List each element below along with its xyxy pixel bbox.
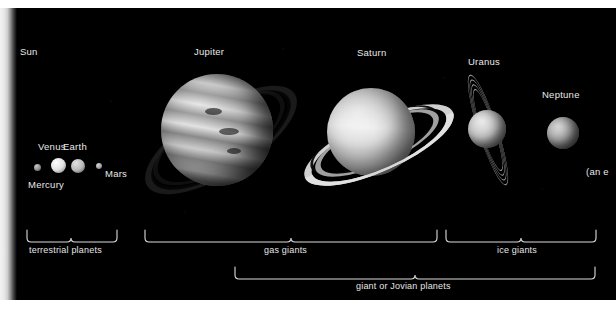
bracket-ice-giants xyxy=(445,229,597,243)
bracket-label-ice-giants: ice giants xyxy=(497,246,537,255)
sun-limb xyxy=(0,8,17,300)
label-sun: Sun xyxy=(20,47,38,57)
jupiter-spot-1 xyxy=(205,108,222,115)
planet-mercury xyxy=(34,164,41,171)
planet-mars xyxy=(96,163,102,169)
label-mars: Mars xyxy=(105,169,127,179)
solar-system-figure: Sun Mercury Venus Earth Mars Jupiter xyxy=(0,0,616,310)
jupiter-spot-3 xyxy=(227,148,241,154)
bracket-terrestrial xyxy=(26,229,118,243)
planet-jupiter-group xyxy=(140,60,288,206)
planet-saturn-group xyxy=(296,66,446,208)
planet-jupiter xyxy=(161,74,273,186)
planet-venus xyxy=(51,158,66,173)
planet-neptune xyxy=(547,117,579,149)
jupiter-spot-2 xyxy=(219,128,239,135)
label-earth: Earth xyxy=(63,142,87,152)
caption-fragment: (an e xyxy=(586,167,609,177)
label-saturn: Saturn xyxy=(357,48,387,58)
diagram-plate: Sun Mercury Venus Earth Mars Jupiter xyxy=(0,8,616,300)
label-jupiter: Jupiter xyxy=(194,47,224,57)
bracket-label-gas-giants: gas giants xyxy=(264,246,307,255)
bracket-gas-giants xyxy=(144,229,438,243)
planet-earth xyxy=(71,159,85,173)
bracket-jovian xyxy=(234,266,596,280)
bracket-label-terrestrial: terrestrial planets xyxy=(29,246,102,255)
bracket-label-jovian: giant or Jovian planets xyxy=(356,282,451,291)
label-uranus: Uranus xyxy=(468,57,500,67)
label-venus: Venus xyxy=(38,142,66,152)
planet-uranus xyxy=(468,110,506,148)
planet-uranus-group xyxy=(452,70,522,190)
label-mercury: Mercury xyxy=(28,180,64,190)
label-neptune: Neptune xyxy=(542,90,580,100)
